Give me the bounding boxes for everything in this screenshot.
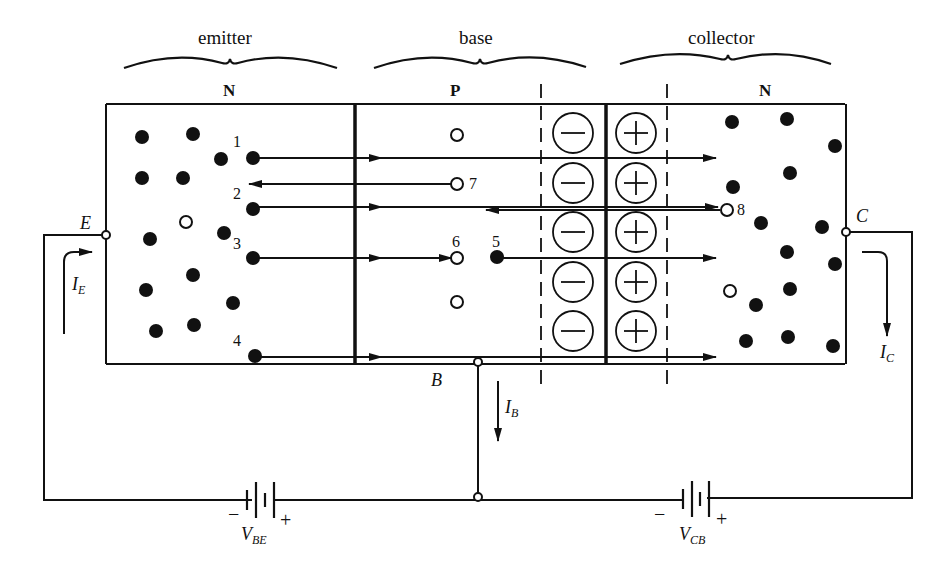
base-title: base (459, 28, 493, 47)
electron-icon (725, 115, 739, 129)
base-current-label: IB (505, 398, 518, 419)
npn-transistor-diagram: emitter base collector N P N 1 2 3 4 5 6… (0, 0, 942, 567)
positive-ion-icon (616, 212, 656, 252)
emitter-node-icon (102, 231, 110, 239)
electron-icon (217, 226, 231, 240)
electron-icon (214, 152, 228, 166)
base-type-label: P (450, 82, 460, 99)
positive-ions (616, 113, 656, 351)
electron-icon (490, 250, 504, 264)
negative-ion-icon (553, 113, 593, 153)
electron-icon (187, 318, 201, 332)
emitter-title: emitter (198, 28, 252, 47)
vbe-minus: − (228, 504, 239, 524)
base-terminal-label: B (431, 371, 442, 389)
junction-node-icon (474, 493, 482, 501)
hole-icon (451, 178, 463, 190)
electron-icon (246, 251, 260, 265)
electron-icon (739, 334, 753, 348)
carrier-label-1: 1 (233, 134, 241, 150)
vbe-label: VBE (241, 525, 267, 546)
collector-type-label: N (759, 82, 771, 99)
carrier-label-6: 6 (452, 234, 460, 250)
base-node-icon (474, 358, 482, 366)
emitter-electrons (135, 127, 262, 363)
negative-ion-icon (553, 212, 593, 252)
electron-icon (783, 166, 797, 180)
collector-terminal-label: C (856, 207, 868, 225)
collector-brace (620, 54, 831, 64)
carrier-label-3: 3 (233, 236, 241, 252)
vcb-battery-icon (683, 481, 709, 517)
carrier-paths (249, 158, 720, 357)
negative-ion-icon (553, 262, 593, 302)
hole-icon (180, 216, 192, 228)
electron-icon (815, 220, 829, 234)
hole-icon (451, 296, 463, 308)
current-arrows (64, 252, 887, 441)
carrier-label-8: 8 (737, 202, 745, 218)
electron-icon (226, 296, 240, 310)
carrier-label-5: 5 (492, 234, 500, 250)
negative-ion-icon (553, 311, 593, 351)
positive-ion-icon (616, 163, 656, 203)
carrier-label-4: 4 (233, 333, 241, 349)
electron-icon (135, 171, 149, 185)
electron-icon (780, 112, 794, 126)
hole-icon (724, 285, 736, 297)
collector-title: collector (688, 28, 754, 47)
collector-node-icon (842, 228, 850, 236)
collector-electrons (725, 112, 842, 353)
vcb-minus: − (654, 504, 665, 524)
negative-ion-icon (553, 163, 593, 203)
emitter-brace (124, 57, 337, 68)
vbe-plus: + (280, 510, 291, 530)
electron-icon (135, 130, 149, 144)
positive-ion-icon (616, 113, 656, 153)
emitter-type-label: N (223, 82, 235, 99)
hole-icon (451, 129, 463, 141)
emitter-terminal-label: E (80, 214, 91, 232)
hole-icon (721, 204, 733, 216)
base-brace (374, 57, 586, 68)
collector-holes (721, 204, 736, 297)
diagram-canvas (0, 0, 942, 567)
electron-icon (186, 127, 200, 141)
electron-icon (828, 139, 842, 153)
ic-arrow-icon (862, 252, 887, 336)
carrier-label-7: 7 (469, 176, 477, 192)
electron-icon (139, 283, 153, 297)
transistor-body (106, 84, 846, 384)
electron-icon (143, 232, 157, 246)
electron-icon (186, 268, 200, 282)
vcb-plus: + (716, 509, 727, 529)
positive-ion-icon (616, 311, 656, 351)
electron-icon (781, 330, 795, 344)
carrier-label-2: 2 (233, 186, 241, 202)
electron-icon (749, 298, 763, 312)
emitter-current-label: IE (72, 275, 85, 296)
electron-icon (726, 180, 740, 194)
vcb-label: VCB (679, 525, 705, 546)
electron-icon (246, 151, 260, 165)
base-holes (451, 129, 463, 308)
electron-icon (780, 245, 794, 259)
electron-icon (828, 257, 842, 271)
electron-icon (754, 216, 768, 230)
electron-icon (149, 324, 163, 338)
electron-icon (176, 171, 190, 185)
collector-current-label: IC (880, 343, 894, 364)
electron-icon (783, 282, 797, 296)
electron-icon (826, 339, 840, 353)
electron-icon (246, 202, 260, 216)
negative-ions (553, 113, 593, 351)
positive-ion-icon (616, 262, 656, 302)
hole-icon (451, 252, 463, 264)
electron-icon (248, 349, 262, 363)
